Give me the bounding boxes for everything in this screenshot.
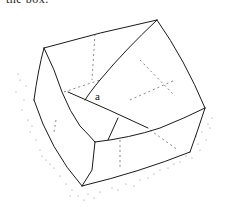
fold-lines [54, 34, 178, 170]
fold-label-a: a [95, 90, 100, 102]
origami-box-figure [0, 0, 227, 208]
stipple-shadow [15, 73, 212, 200]
box-outline [34, 20, 205, 186]
